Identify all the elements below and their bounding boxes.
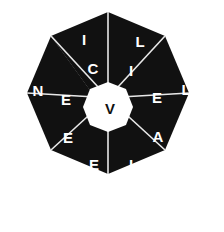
letter-bottom-right-outer: C — [136, 184, 147, 201]
letter-bottom-left-inner: E — [89, 156, 99, 173]
letter-top-right-inner: I — [129, 62, 133, 79]
letter-left-upper-inner: E — [61, 91, 71, 108]
letter-right-upper-outer: L — [181, 81, 190, 98]
letter-left-lower-inner: E — [63, 129, 73, 146]
octagon-wheel-graphic: I L L H C D R N C I E A I E E E V — [0, 0, 224, 232]
letter-center: V — [105, 100, 115, 117]
letter-top-left-inner: C — [88, 60, 99, 77]
letter-right-upper-inner: E — [152, 89, 162, 106]
letter-left-upper-outer: N — [33, 82, 44, 99]
letter-right-lower-outer: H — [182, 140, 193, 157]
word-wheel-puzzle: I L L H C D R N C I E A I E E E V — [0, 0, 224, 232]
letter-bottom-right-inner: I — [129, 156, 133, 173]
letter-right-lower-inner: A — [153, 128, 164, 145]
letter-bottom-left-outer: D — [80, 184, 91, 201]
letter-top-left-outer: I — [82, 31, 86, 48]
letter-left-lower-outer: R — [33, 142, 44, 159]
letter-top-right-outer: L — [135, 33, 144, 50]
